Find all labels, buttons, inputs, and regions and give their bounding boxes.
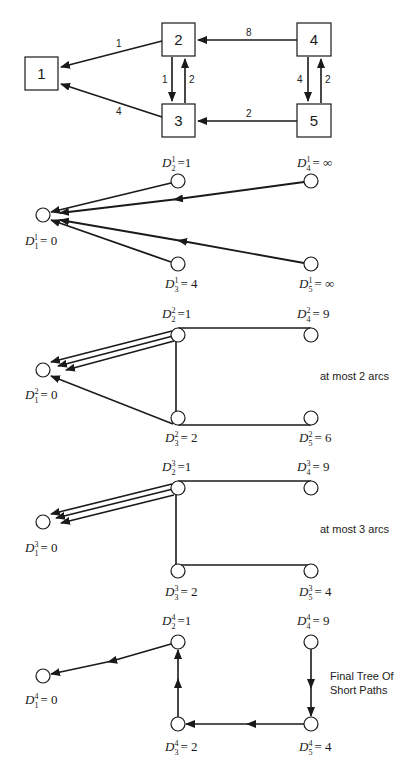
node-label-1: 1 bbox=[37, 65, 45, 82]
s2-node-1 bbox=[36, 363, 50, 377]
edge-label-5-4: 2 bbox=[325, 74, 331, 85]
s2-path-3-2-1 bbox=[66, 341, 174, 370]
s1-edge-5-1 bbox=[60, 220, 304, 263]
s4-node-1 bbox=[36, 669, 50, 683]
s3-path-3-2-1 bbox=[61, 495, 174, 523]
s2-label-2: D22=1 bbox=[161, 306, 191, 324]
s4-node-5 bbox=[304, 717, 318, 731]
edge-2-to-1 bbox=[61, 41, 162, 67]
s1-label-3: D31= 4 bbox=[164, 276, 198, 294]
s3-node-1 bbox=[36, 515, 50, 529]
s1-node-3 bbox=[171, 257, 185, 271]
s1-label-5: D51= ∞ bbox=[298, 276, 334, 294]
s3-label-1: D13= 0 bbox=[24, 540, 57, 558]
s4-note-line1: Final Tree Of bbox=[330, 670, 395, 682]
s3-node-5 bbox=[304, 564, 318, 578]
s3-label-4: D43= 9 bbox=[296, 459, 329, 477]
s2-label-1: D12= 0 bbox=[24, 387, 57, 405]
s4-label-2: D24=1 bbox=[161, 613, 191, 631]
node-label-5: 5 bbox=[310, 112, 318, 129]
s4-node-3 bbox=[171, 717, 185, 731]
edge-label-3-1: 4 bbox=[116, 106, 122, 117]
stage-2: D22=1 D42= 9 D12= 0 D32= 2 D52= 6 at mos… bbox=[24, 306, 390, 448]
node-label-2: 2 bbox=[174, 31, 182, 48]
s2-path-5-3-1 bbox=[51, 376, 173, 424]
s2-node-4 bbox=[304, 328, 318, 342]
s4-label-3: D34= 2 bbox=[164, 739, 197, 757]
edge-label-4-2: 8 bbox=[246, 27, 252, 38]
s1-node-2 bbox=[171, 174, 185, 188]
s2-node-2 bbox=[171, 328, 185, 342]
s3-node-2 bbox=[171, 481, 185, 495]
edge-label-2-3: 1 bbox=[162, 74, 168, 85]
s3-node-4 bbox=[304, 481, 318, 495]
edge-label-4-5: 4 bbox=[297, 74, 303, 85]
s4-label-5: D54= 4 bbox=[298, 739, 332, 757]
s1-label-1: D11= 0 bbox=[24, 233, 57, 251]
s4-edge-2-1 bbox=[51, 644, 171, 674]
s3-path-4-2-1 bbox=[56, 489, 173, 518]
s3-label-5: D53= 4 bbox=[298, 584, 332, 602]
s4-note-line2: Short Paths bbox=[330, 684, 388, 696]
s4-label-1: D14= 0 bbox=[24, 692, 57, 710]
original-graph: 1 4 1 2 8 2 4 2 1 2 3 4 5 bbox=[25, 23, 331, 137]
edge-label-3-2: 2 bbox=[189, 74, 195, 85]
s2-node-5 bbox=[304, 411, 318, 425]
s2-path-4-2-1 bbox=[58, 336, 173, 366]
node-label-4: 4 bbox=[310, 31, 318, 48]
s4-node-4 bbox=[304, 635, 318, 649]
s1-edge-3-1 bbox=[51, 220, 171, 262]
s3-path-2-1 bbox=[51, 484, 172, 514]
bellman-ford-diagram: 1 4 1 2 8 2 4 2 1 2 3 4 5 bbox=[0, 0, 413, 777]
s4-label-4: D44= 9 bbox=[296, 613, 329, 631]
s1-node-1 bbox=[36, 208, 50, 222]
node-label-3: 3 bbox=[174, 112, 182, 129]
edge-label-2-1: 1 bbox=[116, 38, 122, 49]
stage-4: D24=1 D44= 9 D14= 0 D34= 2 D54= 4 Final … bbox=[24, 613, 395, 757]
s4-node-2 bbox=[171, 635, 185, 649]
edge-label-5-3: 2 bbox=[246, 108, 252, 119]
s2-node-3 bbox=[171, 411, 185, 425]
s2-note: at most 2 arcs bbox=[320, 370, 390, 382]
s1-node-4 bbox=[304, 174, 318, 188]
s3-note: at most 3 arcs bbox=[320, 523, 390, 535]
stage-1: D21=1 D41= ∞ D11= 0 D31= 4 D51= ∞ bbox=[24, 155, 334, 294]
s3-node-3 bbox=[171, 564, 185, 578]
s3-label-2: D23=1 bbox=[161, 459, 191, 477]
s1-label-4: D41= ∞ bbox=[296, 155, 332, 173]
s2-label-3: D32= 2 bbox=[164, 430, 197, 448]
s3-label-3: D33= 2 bbox=[164, 584, 197, 602]
s1-node-5 bbox=[304, 257, 318, 271]
s2-label-5: D52= 6 bbox=[298, 430, 332, 448]
edge-3-to-1 bbox=[61, 84, 162, 117]
s2-label-4: D42= 9 bbox=[296, 306, 329, 324]
s1-label-2: D21=1 bbox=[161, 155, 191, 173]
stage-3: D23=1 D43= 9 D13= 0 D33= 2 D53= 4 at mos… bbox=[24, 459, 390, 602]
